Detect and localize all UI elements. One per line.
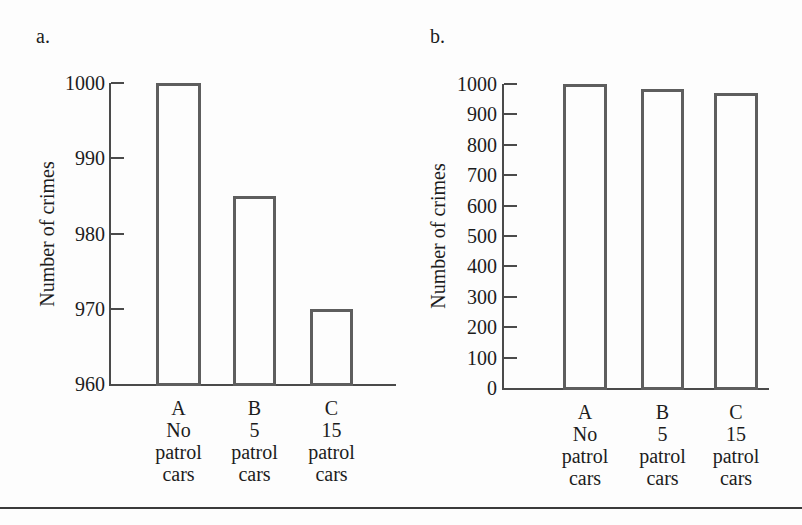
chart-b-y-tick-label: 1000 [417, 73, 497, 95]
chart-a-bar-B [233, 196, 276, 386]
chart-b-x-category-label: C15patrolcars [666, 401, 802, 489]
chart-b-x-category-label-line: C [666, 401, 802, 423]
chart-a-x-category-label-line: 15 [262, 419, 402, 441]
chart-b-bar-C [714, 93, 758, 390]
chart-a-x-category-label-line: C [262, 397, 402, 419]
chart-b-y-axis-title: Number of crimes [427, 126, 449, 346]
chart-a-y-tick [111, 308, 124, 310]
chart-b-y-tick [504, 174, 517, 176]
chart-b-x-category-label-line: cars [666, 467, 802, 489]
chart-a-y-tick [111, 82, 124, 84]
chart-b-y-tick-label: 900 [417, 103, 497, 125]
panel-a-label: a. [36, 25, 50, 47]
chart-a-bar-A [156, 83, 201, 386]
chart-b-y-tick [504, 265, 517, 267]
chart-b-y-tick [504, 296, 517, 298]
bottom-divider-line [0, 507, 802, 509]
chart-a-x-category-label: C15patrolcars [262, 397, 402, 485]
chart-b-y-tick [504, 83, 517, 85]
chart-b-y-axis-line [502, 84, 504, 390]
chart-b-x-category-label-line: patrol [666, 445, 802, 467]
chart-a-y-tick-label: 1000 [25, 72, 105, 94]
chart-a-y-axis-title: Number of crimes [36, 124, 58, 344]
chart-a-y-axis-line [109, 83, 111, 386]
chart-a-x-category-label-line: cars [262, 463, 402, 485]
chart-b-bar-A [563, 84, 607, 390]
chart-b-x-category-label-line: 15 [666, 423, 802, 445]
chart-a-y-tick [111, 233, 124, 235]
figure-page: a. b. 9609709809901000ANopatrolcarsB5pat… [0, 0, 802, 525]
chart-b-y-tick [504, 113, 517, 115]
chart-a-y-tick [111, 157, 124, 159]
chart-b-y-tick [504, 357, 517, 359]
chart-a-bar-C [310, 309, 353, 386]
chart-b-y-tick [504, 326, 517, 328]
chart-b-bar-B [641, 89, 684, 390]
chart-a-y-tick-label: 960 [25, 373, 105, 395]
chart-b-y-tick [504, 205, 517, 207]
chart-b-y-tick-label: 0 [417, 377, 497, 399]
chart-b-y-tick-label: 100 [417, 347, 497, 369]
chart-b-y-tick [504, 144, 517, 146]
panel-b-label: b. [430, 25, 445, 47]
chart-a-x-category-label-line: patrol [262, 441, 402, 463]
chart-b-y-tick [504, 235, 517, 237]
